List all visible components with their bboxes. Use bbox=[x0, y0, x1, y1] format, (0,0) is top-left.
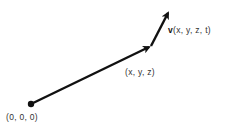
velocity-args: (x, y, z, t) bbox=[173, 25, 211, 35]
vector-diagram bbox=[0, 0, 230, 130]
velocity-label: v(x, y, z, t) bbox=[168, 25, 211, 35]
velocity-vector-arrow bbox=[151, 13, 168, 46]
position-label: (x, y, z) bbox=[125, 67, 155, 77]
origin-label: (0, 0, 0) bbox=[6, 112, 38, 122]
